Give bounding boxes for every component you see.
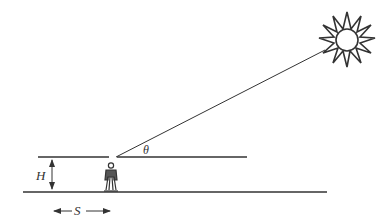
sun-ray-line [116,50,325,157]
angle-label: θ [143,143,149,157]
person-icon [104,163,118,191]
height-label: H [35,168,46,183]
distance-label: S [74,203,81,218]
sun-icon [319,12,375,67]
sun-angle-diagram: H S θ [0,0,392,219]
sun-disc [336,29,358,51]
